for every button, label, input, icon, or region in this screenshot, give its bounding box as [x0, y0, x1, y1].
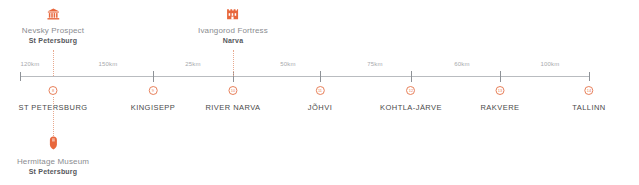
station-marker-icon: 11	[316, 86, 325, 95]
station-number: 8	[50, 89, 57, 93]
station-tallinn[interactable]: 14 TALLINN	[572, 86, 605, 112]
segment-distance-label: 50km	[280, 61, 295, 67]
station-number: 10	[229, 89, 236, 93]
axis-tick	[153, 71, 154, 82]
segment-distance-label: 150km	[98, 61, 117, 67]
segment-distance-label: 60km	[454, 61, 469, 67]
station-label: KINGISEPP	[131, 103, 175, 112]
station-kingisepp[interactable]: 9 KINGISEPP	[131, 86, 175, 112]
station-kohtla-jarve[interactable]: 12 KOHTLA-JÄRVE	[380, 86, 442, 112]
station-marker-icon: 8	[49, 86, 58, 95]
station-number: 12	[407, 89, 414, 93]
axis-end-cap	[589, 72, 590, 81]
station-label: RIVER NARVA	[205, 103, 260, 112]
station-number: 14	[586, 89, 593, 93]
poi-connector-line	[233, 50, 234, 76]
station-marker-icon: 12	[406, 86, 415, 95]
segment-distance-label: 100km	[540, 61, 559, 67]
poi-connector-line	[53, 50, 54, 76]
museum-icon	[22, 8, 84, 20]
axis-line	[20, 76, 590, 77]
route-timeline: 120km 150km 25km 50km 75km 60km 100km 8 …	[0, 0, 639, 185]
station-label: JÕHVI	[308, 103, 332, 112]
station-rakvere[interactable]: 13 RAKVERE	[481, 86, 520, 112]
axis-tick	[320, 71, 321, 82]
axis-start-cap	[20, 72, 21, 81]
station-number: 13	[497, 89, 504, 93]
station-label: RAKVERE	[481, 103, 520, 112]
fortress-icon	[198, 8, 268, 20]
station-river-narva[interactable]: 10 RIVER NARVA	[205, 86, 260, 112]
station-marker-icon: 13	[496, 86, 505, 95]
poi-title: Ivangorod Fortress	[198, 26, 268, 35]
segment-distance-label: 120km	[20, 61, 39, 67]
axis-tick	[500, 71, 501, 82]
poi-nevsky-prospect[interactable]: Nevsky Prospect St Petersburg	[22, 8, 84, 44]
station-number: 11	[317, 89, 324, 93]
poi-ivangorod-fortress[interactable]: Ivangorod Fortress Narva	[198, 8, 268, 44]
map-pin-icon	[17, 136, 89, 150]
station-marker-icon: 10	[228, 86, 237, 95]
poi-hermitage-museum[interactable]: Hermitage Museum St Petersburg	[17, 136, 89, 175]
station-label: KOHTLA-JÄRVE	[380, 103, 442, 112]
segment-distance-label: 75km	[367, 61, 382, 67]
segment-distance-label: 25km	[185, 61, 200, 67]
station-marker-icon: 9	[148, 86, 157, 95]
station-label: TALLINN	[572, 103, 605, 112]
poi-subtitle: St Petersburg	[17, 168, 89, 175]
station-marker-icon: 14	[585, 86, 594, 95]
axis-tick	[411, 71, 412, 82]
station-number: 9	[149, 89, 156, 93]
poi-connector-line	[53, 97, 54, 136]
poi-title: Nevsky Prospect	[22, 26, 84, 35]
poi-subtitle: St Petersburg	[22, 37, 84, 44]
poi-title: Hermitage Museum	[17, 157, 89, 166]
poi-subtitle: Narva	[198, 37, 268, 44]
station-johvi[interactable]: 11 JÕHVI	[308, 86, 332, 112]
